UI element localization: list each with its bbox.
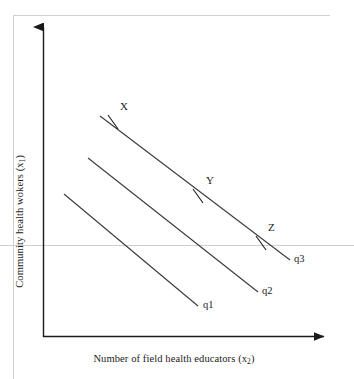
tick-mark-y — [193, 189, 203, 203]
point-label-y: Y — [206, 175, 214, 186]
isoquant-lines — [64, 116, 290, 306]
point-label-z: Z — [268, 222, 275, 233]
x-axis-label: Number of field health educators (x2) — [44, 353, 304, 366]
scan-frame-artifact — [0, 15, 354, 379]
isoquant-q2 — [88, 158, 258, 292]
curve-label-q1: q1 — [203, 300, 214, 311]
isoquant-q3 — [100, 116, 290, 260]
isoquant-figure: Community health wokers (x1) Number of f… — [0, 0, 354, 379]
tick-mark-x — [108, 115, 118, 129]
y-axis-label-subscript: 1 — [18, 159, 27, 163]
curve-label-q2: q2 — [262, 286, 273, 297]
figure-canvas — [0, 0, 354, 379]
curve-label-q3: q3 — [294, 254, 305, 265]
y-axis-label: Community health wokers (x1) — [14, 129, 27, 314]
isoquant-q1 — [64, 194, 198, 306]
point-label-x: X — [120, 101, 128, 112]
